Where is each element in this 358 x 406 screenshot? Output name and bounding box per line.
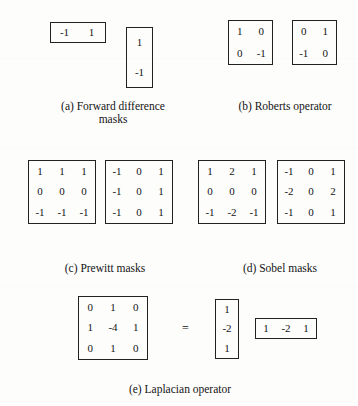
matrix-cell: -1 (249, 207, 258, 218)
matrix-cell: -1 (299, 48, 308, 59)
matrix-cell: 1 (158, 186, 164, 197)
matrix-cell: -2 (284, 186, 293, 197)
matrix-cell: 1 (37, 166, 43, 177)
matrix-cell: 2 (330, 186, 336, 197)
matrix-cell: 1 (330, 207, 336, 218)
matrix-cell: 1 (251, 166, 257, 177)
matrix-cell: -2 (222, 323, 231, 334)
matrix-cell: 0 (259, 26, 265, 37)
matrix-cell: 0 (251, 186, 257, 197)
matrix-cell: 0 (133, 302, 139, 313)
equals-sign: = (182, 322, 189, 334)
matrix-cell: 1 (110, 302, 116, 313)
caption-sobel-masks: (d) Sobel masks (215, 262, 345, 275)
matrix-cell: -1 (60, 27, 69, 38)
matrix-cell: -1 (205, 207, 214, 218)
matrix-cell: 0 (207, 186, 213, 197)
scan-artifact-band (0, 286, 358, 287)
matrix-cell: 1 (137, 37, 143, 48)
matrix-cell: 1 (89, 27, 95, 38)
matrix-cell: 1 (303, 323, 309, 334)
matrix-cell: 0 (308, 186, 314, 197)
matrix-cell: 0 (59, 186, 65, 197)
laplacian-row-vector: 1 -2 1 (255, 318, 317, 339)
caption-forward-difference: (a) Forward difference masks (48, 100, 178, 126)
roberts-mask-2: 0 1 -1 0 (292, 20, 337, 65)
matrix-cell: 1 (224, 343, 230, 354)
matrix-cell: 0 (308, 166, 314, 177)
matrix-cell: -4 (108, 322, 117, 333)
matrix-cell: 2 (229, 166, 235, 177)
caption-roberts-operator: (b) Roberts operator (215, 100, 355, 113)
matrix-cell: -2 (227, 207, 236, 218)
matrix-cell: 1 (81, 166, 87, 177)
forward-difference-horizontal-mask: -1 1 (50, 22, 106, 43)
sobel-vertical-mask: -1 0 1 -2 0 2 -1 0 1 (277, 160, 345, 224)
edge-detection-masks-figure: -1 1 1 -1 (a) Forward difference masks 1… (0, 0, 358, 406)
matrix-cell: 0 (237, 48, 243, 59)
roberts-mask-1: 1 0 0 -1 (228, 20, 273, 65)
matrix-cell: 1 (110, 343, 116, 354)
caption-prewitt-masks: (c) Prewitt masks (40, 262, 170, 275)
matrix-cell: 1 (207, 166, 213, 177)
matrix-cell: 1 (323, 26, 329, 37)
matrix-cell: 0 (301, 26, 307, 37)
matrix-cell: 1 (133, 322, 139, 333)
matrix-cell: 0 (88, 302, 94, 313)
matrix-cell: -1 (284, 207, 293, 218)
matrix-cell: -1 (112, 186, 121, 197)
matrix-cell: 1 (330, 166, 336, 177)
matrix-cell: -1 (112, 207, 121, 218)
matrix-cell: 0 (37, 186, 43, 197)
matrix-cell: 1 (88, 322, 94, 333)
sobel-horizontal-mask: 1 2 1 0 0 0 -1 -2 -1 (198, 160, 266, 224)
laplacian-kernel-mask: 0 1 0 1 -4 1 0 1 0 (78, 296, 148, 360)
scan-artifact-band (0, 148, 358, 149)
caption-laplacian-operator: (e) Laplacian operator (95, 383, 265, 396)
matrix-cell: 0 (133, 343, 139, 354)
forward-difference-vertical-mask: 1 -1 (126, 27, 153, 88)
matrix-cell: -1 (112, 166, 121, 177)
matrix-cell: 1 (158, 166, 164, 177)
matrix-cell: -1 (284, 166, 293, 177)
matrix-cell: -1 (35, 207, 44, 218)
matrix-cell: 0 (308, 207, 314, 218)
matrix-cell: 0 (229, 186, 235, 197)
matrix-cell: -1 (135, 67, 144, 78)
matrix-cell: 0 (323, 48, 329, 59)
matrix-cell: 1 (263, 323, 269, 334)
matrix-cell: 1 (237, 26, 243, 37)
matrix-cell: 0 (136, 207, 142, 218)
matrix-cell: -2 (281, 323, 290, 334)
prewitt-vertical-mask: -1 0 1 -1 0 1 -1 0 1 (105, 160, 173, 224)
matrix-cell: 1 (158, 207, 164, 218)
prewitt-horizontal-mask: 1 1 1 0 0 0 -1 -1 -1 (28, 160, 96, 224)
laplacian-column-vector: 1 -2 1 (215, 299, 239, 359)
matrix-cell: 0 (81, 186, 87, 197)
matrix-cell: -1 (257, 48, 266, 59)
matrix-cell: 1 (224, 304, 230, 315)
matrix-cell: 0 (136, 186, 142, 197)
matrix-cell: 0 (88, 343, 94, 354)
matrix-cell: -1 (79, 207, 88, 218)
matrix-cell: 1 (59, 166, 65, 177)
matrix-cell: -1 (57, 207, 66, 218)
matrix-cell: 0 (136, 166, 142, 177)
